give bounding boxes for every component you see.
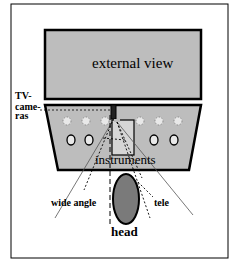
tele-label: tele: [154, 197, 170, 208]
head-shape: [113, 174, 139, 224]
tv-camera-icon: [111, 105, 116, 119]
tv-cameras-label-1: TV-: [15, 90, 31, 101]
instruments-label: instruments: [95, 152, 156, 167]
cockpit-diagram: external view instruments TV- came- ras: [0, 0, 235, 267]
camera-lens: [114, 119, 120, 122]
external-view-label: external view: [92, 55, 173, 71]
wide-angle-label: wide angle: [51, 197, 97, 208]
head-label: head: [111, 224, 139, 239]
tv-cameras-label-3: ras: [15, 110, 28, 121]
instrument-box: [112, 120, 134, 155]
